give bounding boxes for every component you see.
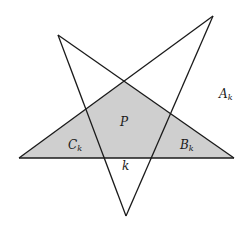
label-A-main: A: [219, 87, 228, 101]
label-A-sub: k: [228, 93, 233, 102]
label-B-sub: k: [189, 144, 194, 153]
label-P: P: [120, 116, 128, 128]
label-P-main: P: [120, 115, 128, 129]
label-k-main: k: [122, 159, 129, 173]
label-B-main: B: [180, 138, 189, 152]
label-C-main: C: [68, 138, 77, 152]
label-A: Ak: [219, 88, 233, 102]
label-k: k: [122, 160, 129, 172]
label-B: Bk: [180, 139, 194, 153]
pentagram-figure: [0, 0, 248, 228]
label-C: Ck: [68, 139, 82, 153]
label-C-sub: k: [77, 144, 82, 153]
pentagram-diagram: Ak P Ck Bk k: [0, 0, 248, 228]
